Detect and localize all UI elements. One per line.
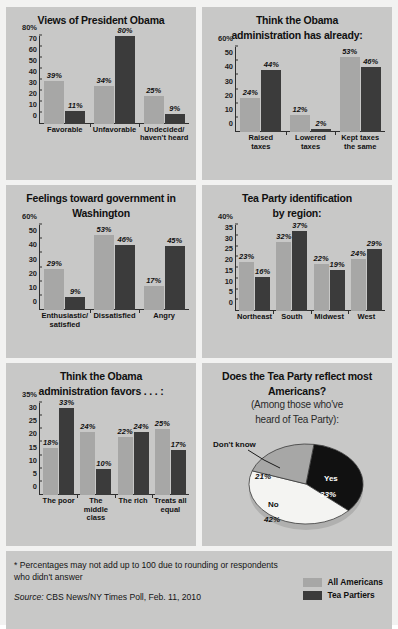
bar-tea-partiers: 80% [115, 36, 135, 124]
panel-does-tea-party-reflect-most-americans: Does the Tea Party reflect most American… [202, 363, 392, 546]
bar-value-label: 53% [96, 226, 111, 234]
y-axis-tick-label: 40 [11, 241, 40, 249]
panel-administration-has-already: Think the Obama administration has alrea… [202, 7, 392, 180]
bar-tea-partiers: 46% [115, 245, 135, 310]
bar-value-label: 33% [59, 399, 74, 407]
bar-value-label: 45% [167, 237, 182, 245]
bar-tea-partiers: 33% [59, 408, 74, 495]
panel-feelings-toward-government: Feelings toward government in Washington… [6, 185, 196, 358]
bar-chart-tea-party-identification-by-region: 40%3530252015105023%16%32%37%22%19%24%29… [207, 225, 387, 311]
bar-value-label: 11% [68, 102, 82, 110]
bar-all-americans: 17% [144, 286, 164, 310]
bar-tea-partiers: 17% [171, 450, 186, 495]
y-axis-tick-label: 30 [207, 78, 236, 86]
bar-all-americans: 25% [144, 96, 164, 124]
bar-all-americans: 12% [290, 115, 310, 132]
bar-tea-partiers: 46% [361, 67, 381, 132]
bar-value-label: 34% [96, 77, 111, 85]
bar-value-label: 16% [255, 268, 270, 276]
footer: * Percentages may not add up to 100 due … [6, 551, 392, 629]
bar-group: 53%46% [90, 225, 140, 310]
legend-item-tea-partiers: Tea Partiers [303, 590, 383, 600]
bar-all-americans: 22% [118, 437, 133, 495]
pie-label-dont-know: Don't know [213, 440, 256, 449]
bar-value-label: 12% [292, 106, 307, 114]
x-axis-category-label: Kept taxes the same [335, 134, 385, 151]
bar-group: 17%45% [139, 225, 189, 310]
bar-group-container: 23%16%32%37%22%19%24%29% [236, 225, 385, 311]
bar-tea-partiers: 16% [255, 277, 270, 311]
y-axis-tick-label: 10 [11, 457, 40, 465]
x-axis-category-label: West [348, 313, 385, 322]
x-axis-category-label: The poor [40, 497, 77, 523]
bar-value-label: 24% [243, 89, 258, 97]
x-axis-category-label: Raised taxes [236, 134, 286, 151]
bar-group: 23%16% [236, 225, 273, 311]
legend-swatch-tea-partiers [303, 591, 322, 600]
bar-group: 12%2% [286, 47, 336, 132]
x-axis-category-label: Angry [139, 312, 189, 329]
bar-chart-administration-has-already: 60%5040302010024%44%12%2%53%46%Raised ta… [207, 47, 387, 132]
bar-value-label: 18% [43, 439, 58, 447]
x-axis-category-label: Lowered taxes [286, 134, 336, 151]
y-axis-tick-label: 0 [207, 120, 236, 128]
y-axis-tick-label: 40% [207, 213, 236, 221]
panel-title-line1: Does the Tea Party reflect most [207, 370, 387, 383]
bar-value-label: 39% [47, 72, 62, 80]
x-axis-category-label: Dissatisfied [90, 312, 140, 329]
x-axis-category-label: South [273, 313, 310, 322]
y-axis-tick-label: 20 [207, 256, 236, 264]
y-axis-tick-label: 35% [11, 391, 40, 399]
bar-value-label: 10% [96, 460, 111, 468]
x-axis-label-row: NortheastSouthMidwestWest [236, 313, 385, 322]
y-axis-tick-label: 0 [11, 298, 40, 306]
x-axis-label-row: Enthusiastic/ satisfiedDissatisfiedAngry [40, 312, 189, 329]
bar-group-container: 39%11%34%80%25%9% [40, 36, 189, 124]
bar-value-label: 29% [47, 260, 62, 268]
source-prefix: Source: [14, 592, 44, 602]
y-axis-tick-label: 0 [11, 483, 40, 491]
bar-value-label: 2% [316, 120, 327, 128]
x-axis-category-label: Undecided/ haven't heard [139, 126, 189, 143]
bar-tea-partiers: 9% [65, 297, 85, 310]
y-axis-tick-label: 25 [11, 417, 40, 425]
y-axis-tick-label: 40 [207, 63, 236, 71]
bar-group-container: 24%44%12%2%53%46% [236, 47, 385, 132]
bar-value-label: 24% [80, 423, 95, 431]
bar-value-label: 23% [239, 253, 254, 261]
pie-value-no: 42% [264, 515, 280, 524]
bar-all-americans: 53% [340, 57, 360, 132]
bar-all-americans: 24% [240, 98, 260, 132]
y-axis-tick-label: 50 [11, 227, 40, 235]
panel-title-line1: Think the Obama [11, 370, 191, 383]
legend-swatch-all-americans [303, 578, 322, 587]
pie-slice-group [249, 444, 363, 524]
pie-chart-tea-party-reflect: Don't know 21% Yes 33% No 42% [207, 428, 387, 540]
y-axis-tick-label: 10 [207, 278, 236, 286]
bar-all-americans: 29% [44, 269, 64, 310]
bar-group: 25%17% [152, 403, 189, 495]
bar-all-americans: 39% [44, 81, 64, 124]
y-axis-tick-label: 10 [11, 101, 40, 109]
panel-title-line2: Americans? [207, 385, 387, 398]
y-axis-tick-label: 30 [11, 79, 40, 87]
y-axis-tick-label: 60% [11, 213, 40, 221]
pie-value-dont-know: 21% [255, 472, 271, 481]
pie-label-no: No [268, 500, 279, 509]
y-axis-tick-label: 30 [11, 404, 40, 412]
panel-views-of-president-obama: Views of President Obama 80%706050403020… [6, 7, 196, 180]
y-axis-tick-label: 20 [11, 90, 40, 98]
bar-value-label: 25% [146, 87, 161, 95]
y-axis-tick-label: 80% [11, 24, 40, 32]
bar-group: 53%46% [335, 47, 385, 132]
panel-subtitle-line2: heard of Tea Party): [207, 414, 387, 427]
bar-value-label: 17% [171, 441, 186, 449]
bar-tea-partiers: 11% [65, 111, 85, 123]
y-axis-tick-label: 50 [207, 49, 236, 57]
y-axis-tick-label: 10 [207, 106, 236, 114]
bar-value-label: 46% [117, 236, 132, 244]
bar-tea-partiers: 44% [261, 70, 281, 132]
bar-value-label: 53% [342, 48, 357, 56]
bar-group: 32%37% [273, 225, 310, 311]
